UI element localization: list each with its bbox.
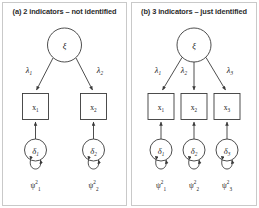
loading-arrow-1: [163, 58, 183, 91]
loading-label-3: λ3: [226, 65, 234, 76]
panel-b: (b) 3 indicators – just identified ξ λ1 …: [129, 0, 259, 208]
variance-label-psi2: ψ22: [189, 179, 199, 192]
latent-label-xi: ξ: [63, 41, 67, 51]
latent-label-xi: ξ: [192, 41, 196, 51]
loading-arrow-2: [76, 58, 93, 90]
variance-label-psi3: ψ23: [222, 179, 232, 192]
loading-arrow-1: [37, 58, 54, 90]
figure-canvas: (a) 2 indicators – not identified ξ λ1 λ…: [0, 0, 259, 208]
panel-a: (a) 2 indicators – not identified ξ λ1 λ…: [0, 0, 129, 208]
variance-label-psi1: ψ21: [31, 179, 41, 192]
variance-label-psi2: ψ22: [89, 179, 99, 192]
panel-b-diagram: ξ λ1 λ2 λ3 x1 x2 x3 δ1 δ2: [129, 0, 259, 208]
panel-a-diagram: ξ λ1 λ2 x1 x2 δ1 δ2 ψ21: [0, 0, 129, 208]
loading-label-1: λ1: [154, 65, 162, 76]
loading-label-2: λ2: [96, 65, 104, 76]
loading-label-1: λ1: [25, 65, 33, 76]
variance-label-psi1: ψ21: [156, 179, 166, 192]
loading-arrow-3: [206, 58, 226, 91]
loading-label-2: λ2: [180, 65, 188, 76]
